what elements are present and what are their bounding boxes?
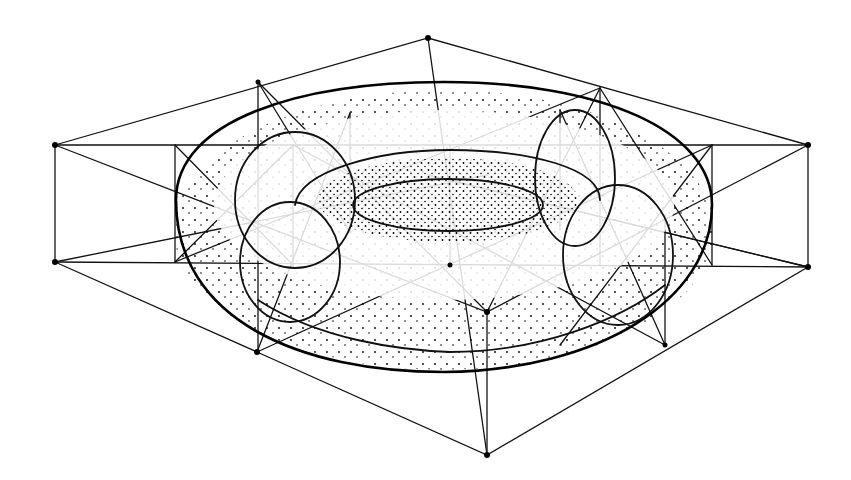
- torus: [174, 82, 714, 372]
- torus-construction-sketch: [0, 0, 851, 480]
